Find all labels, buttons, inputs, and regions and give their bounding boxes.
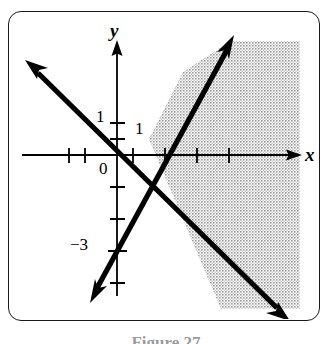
y-axis-unit-label: 1	[96, 108, 105, 125]
shaded-solution-region	[149, 41, 300, 309]
x-axis-label: x	[305, 145, 315, 164]
figure-caption: Figure 27	[0, 334, 332, 344]
coordinate-plane-graph	[0, 0, 332, 344]
x-axis-unit-label: 1	[135, 120, 144, 137]
y-axis-negative-three-label: −3	[70, 236, 88, 253]
figure-container: y x 1 1 0 −3 Figure 27	[0, 0, 332, 344]
origin-label: 0	[99, 160, 108, 177]
y-axis-label: y	[110, 21, 118, 40]
